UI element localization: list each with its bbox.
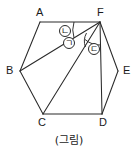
- vertex-label-A: A: [36, 7, 43, 18]
- angle-label-nieun: ㄴ: [59, 25, 71, 37]
- vertex-label-C: C: [38, 117, 46, 128]
- edge-BC: [20, 71, 43, 114]
- vertex-label-B: B: [6, 65, 13, 76]
- geometry-figure: A B C D E F ㄴ ㄱ ㄷ (그림): [0, 0, 138, 151]
- diagonal-FC: [43, 22, 100, 114]
- vertex-label-D: D: [99, 117, 107, 128]
- edge-EF: [100, 22, 118, 71]
- angle-arc-nieun-icon: [73, 22, 74, 38]
- angle-label-digeut: ㄷ: [88, 43, 100, 55]
- edge-DE: [102, 71, 118, 114]
- figure-caption: (그림): [0, 131, 138, 147]
- diagonal-FD: [100, 22, 102, 114]
- vertex-label-F: F: [97, 7, 104, 18]
- hexagon-diagram-svg: [0, 0, 138, 151]
- edge-AB: [20, 22, 40, 71]
- angle-label-giyeok: ㄱ: [63, 37, 75, 49]
- vertex-label-E: E: [123, 65, 130, 76]
